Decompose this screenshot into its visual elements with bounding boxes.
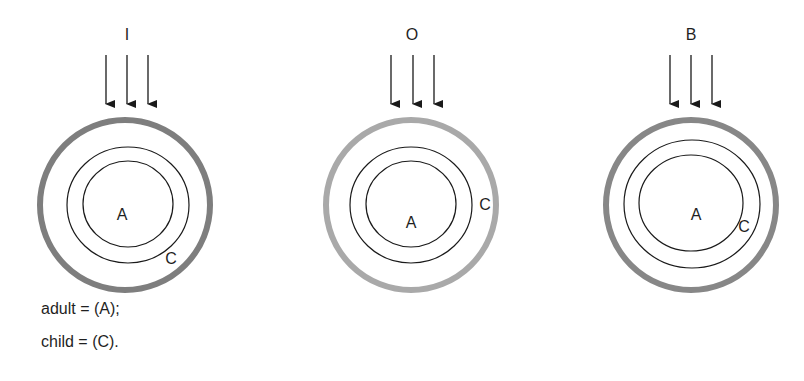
adult-circle xyxy=(83,161,173,247)
child-circle xyxy=(67,147,189,263)
adult-circle xyxy=(639,155,743,251)
outer-ring xyxy=(40,120,210,290)
panel-i: IAC xyxy=(40,26,210,290)
panel-title: O xyxy=(406,26,418,43)
label-a: A xyxy=(117,206,128,223)
legend-adult: adult = (A); xyxy=(41,300,120,318)
legend-child: child = (C). xyxy=(41,333,119,351)
panel-title: I xyxy=(125,26,129,43)
label-c: C xyxy=(479,196,491,213)
label-a: A xyxy=(691,206,702,223)
child-circle xyxy=(624,140,760,268)
label-c: C xyxy=(165,250,177,267)
outer-ring xyxy=(326,120,496,290)
label-c: C xyxy=(738,218,750,235)
panel-title: B xyxy=(686,26,697,43)
concentric-circles-diagram: IACOACBAC xyxy=(0,0,804,381)
panel-b: BAC xyxy=(606,26,776,290)
label-a: A xyxy=(406,214,417,231)
adult-circle xyxy=(366,161,456,247)
child-circle xyxy=(350,147,472,263)
outer-ring xyxy=(606,120,776,290)
panel-o: OAC xyxy=(326,26,496,290)
